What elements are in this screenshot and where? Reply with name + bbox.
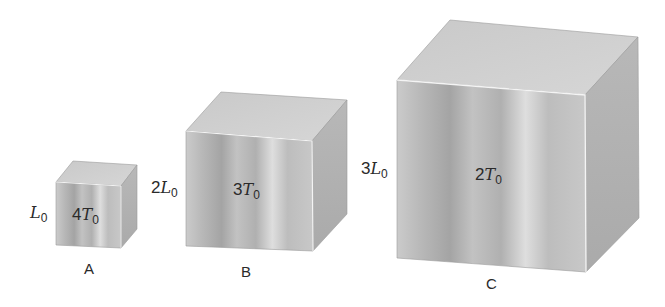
cube-a-temp-var: T	[81, 205, 92, 224]
cube-a-side-label: L0	[30, 204, 47, 224]
cube-b-name: B	[241, 264, 251, 279]
cube-c	[397, 20, 639, 272]
cube-b-temp-label: 3T0	[233, 181, 260, 201]
cubes-drawing	[0, 0, 665, 307]
cube-c-side-var: L	[370, 159, 381, 178]
cube-c-temp-label: 2T0	[475, 166, 502, 186]
cube-b-side-var: L	[160, 178, 171, 197]
cube-b-side-sub: 0	[171, 186, 178, 200]
cube-b-temp-sub: 0	[253, 188, 260, 202]
cube-b	[186, 92, 347, 251]
cube-b-side-label: 2L0	[151, 179, 178, 199]
cube-c-side-sub: 0	[381, 167, 388, 181]
cube-a-side-sub: 0	[41, 211, 48, 225]
cube-b-temp-var: T	[242, 180, 253, 199]
cube-c-temp-sub: 0	[495, 173, 502, 187]
cube-c-temp-var: T	[484, 165, 495, 184]
cube-a-temp-label: 4T0	[72, 206, 99, 226]
cube-a	[56, 161, 137, 248]
cubes-diagram: L0 4T0 A 2L0 3T0 B 3L0 2T0 C	[0, 0, 665, 307]
cube-a-side-var: L	[30, 203, 41, 222]
cube-c-side-label: 3L0	[361, 160, 388, 180]
cube-a-name: A	[84, 261, 94, 276]
cube-c-name: C	[486, 276, 497, 291]
cube-a-temp-sub: 0	[92, 213, 99, 227]
